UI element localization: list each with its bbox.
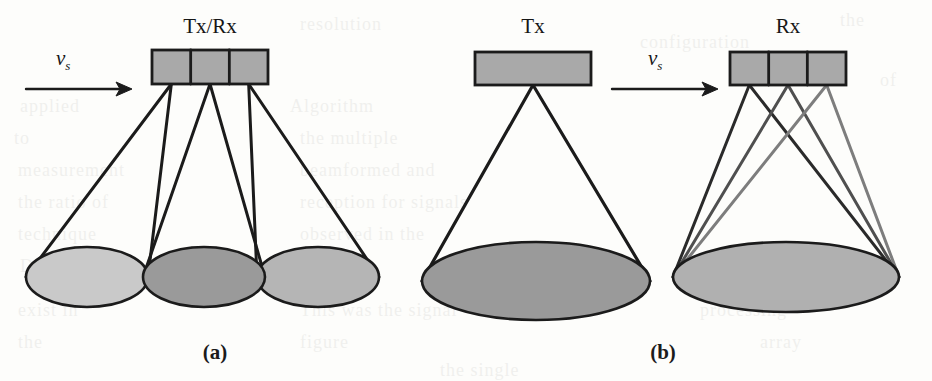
footprint-left (26, 247, 148, 307)
panel-b-rx-array-body (730, 52, 846, 85)
figure-root: resolutiontheappliedAlgorithmoftothe mul… (0, 0, 932, 381)
panel-b-rx-label: Rx (730, 14, 846, 39)
panel-a-speed-label: vs (56, 46, 70, 74)
panel-a-array-label: Tx/Rx (152, 14, 268, 39)
panel-b-tx-array-body (475, 52, 591, 85)
panel-a-array-body (152, 50, 268, 84)
footprint-rx (673, 242, 899, 312)
panel-a-beam-edge-left (249, 84, 257, 277)
panel-b-tx-label: Tx (475, 14, 591, 39)
panel-a-speed-subscript: s (65, 58, 70, 73)
footprint-right (257, 247, 379, 307)
sonar-array-diagram (0, 0, 932, 381)
panel-a-caption: (a) (185, 340, 245, 365)
footprint-center (143, 247, 265, 307)
panel-b-speed-label: vs (648, 46, 662, 74)
panel-b-speed-symbol: v (648, 46, 657, 70)
panel-b-speed-subscript: s (657, 58, 662, 73)
panel-b-caption: (b) (633, 340, 693, 365)
panel-a-speed-symbol: v (56, 46, 65, 70)
footprint-tx (422, 242, 650, 320)
